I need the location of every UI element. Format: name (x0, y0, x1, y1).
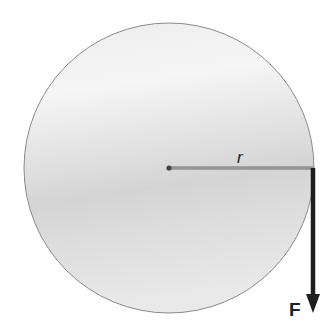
center-point (166, 165, 171, 170)
force-label: F (289, 299, 301, 320)
torque-diagram: r F (0, 0, 334, 335)
